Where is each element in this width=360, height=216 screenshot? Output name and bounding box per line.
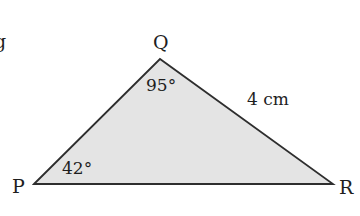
side-label-qr: 4 cm [247,91,289,108]
triangle-diagram: g Q 95° 4 cm 42° P R [0,0,360,216]
vertex-label-r: R [339,178,353,197]
vertex-label-p: P [12,177,25,196]
vertex-label-q: Q [153,33,169,52]
angle-label-q: 95° [146,77,176,94]
edge-text-fragment: g [0,32,6,51]
angle-label-p: 42° [62,160,92,177]
triangle-pqr [0,0,360,216]
